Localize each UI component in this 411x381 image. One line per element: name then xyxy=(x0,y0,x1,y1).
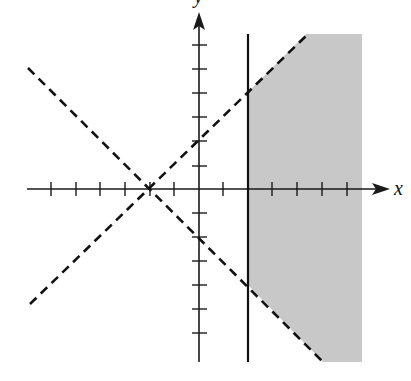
y-axis-label: y xyxy=(192,0,203,8)
inequality-graph: x y xyxy=(0,0,411,381)
x-axis-label: x xyxy=(393,177,403,199)
shaded-solution-region xyxy=(248,34,362,362)
